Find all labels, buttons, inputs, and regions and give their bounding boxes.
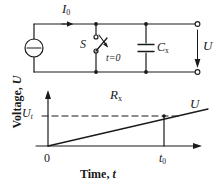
x-axis-label: Time, t <box>80 168 116 180</box>
t0-tick-label: t0 <box>159 152 166 166</box>
figure-vector-layer <box>0 0 217 189</box>
capacitor-label: Cx <box>157 41 169 55</box>
current-label: I0 <box>62 2 70 17</box>
series-line-u <box>48 109 208 146</box>
switch-terminal-top <box>94 35 98 39</box>
switch-action-arrow-head <box>103 42 108 47</box>
y-axis-label-var: U <box>10 76 24 85</box>
node-dot-switch-top <box>94 22 98 26</box>
y-axis-label: Voltage, U <box>11 66 25 138</box>
t0-tick-label-sub: 0 <box>162 157 166 166</box>
node-dot-capacitor-top <box>144 22 148 26</box>
voltage-time-plot <box>36 90 208 149</box>
figure-root: I0 S t=0 Cx U Voltage, U Ut Rx U 0 t0 Ti… <box>0 0 217 189</box>
capacitor-label-sub: x <box>165 46 169 55</box>
circuit-diagram <box>25 21 200 74</box>
switch-time-label: t=0 <box>106 53 121 63</box>
region-label-sub: x <box>118 94 122 103</box>
output-terminal-bottom <box>195 70 200 75</box>
region-label: Rx <box>110 88 122 103</box>
threshold-label: Ut <box>22 107 33 121</box>
output-voltage-label: U <box>203 39 212 52</box>
current-label-sub: 0 <box>66 8 70 17</box>
origin-label: 0 <box>44 152 50 164</box>
current-arrow-head <box>67 21 73 26</box>
output-voltage-arrow-head <box>195 59 201 68</box>
node-dot-switch-bottom <box>94 70 98 74</box>
x-axis-label-var: t <box>112 167 115 181</box>
threshold-label-sub: t <box>31 112 33 121</box>
y-axis-arrowhead <box>45 90 51 99</box>
intersection-point <box>162 114 166 118</box>
output-terminal-top <box>195 22 200 27</box>
node-dot-capacitor-bottom <box>144 70 148 74</box>
x-axis-arrowhead <box>193 143 202 149</box>
series-label-u: U <box>190 97 199 110</box>
switch-label: S <box>80 38 86 50</box>
